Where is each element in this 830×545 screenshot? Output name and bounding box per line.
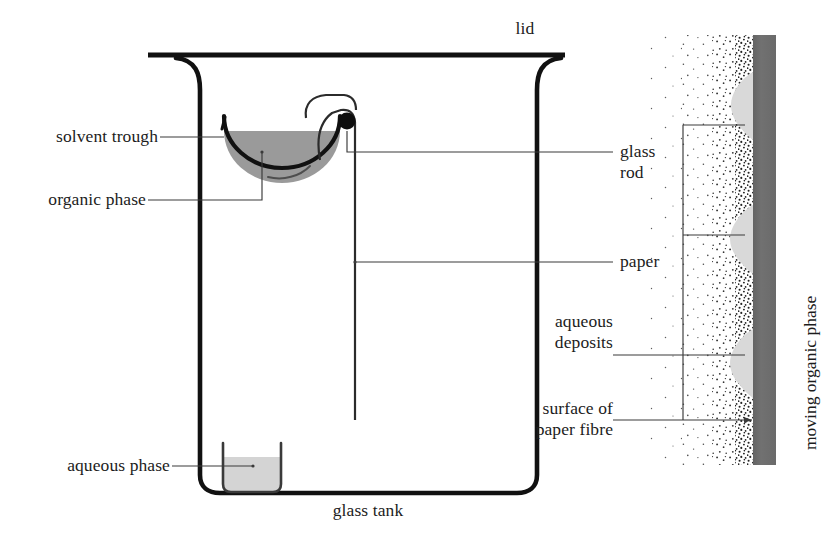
label-lid: lid (490, 18, 560, 39)
label-aqueous-phase: aqueous phase (0, 455, 170, 476)
label-glass-tank: glass tank (278, 500, 458, 521)
stipple-sparse (682, 35, 712, 465)
label-aqueous-deposits-line2: deposits (383, 332, 613, 353)
label-surface-paper-fibre: surface of paper fibre (383, 398, 613, 439)
label-surface-line1: surface of (383, 398, 613, 419)
leader-dot-aqueous-phase (251, 464, 254, 467)
aqueous-beaker-liquid (223, 457, 281, 492)
moving-organic-phase-bar (753, 35, 776, 465)
leader-dot-organic-phase (260, 150, 263, 153)
label-surface-line2: paper fibre (383, 419, 613, 440)
leader-glass-rod (347, 131, 613, 152)
label-aqueous-deposits: aqueous deposits (383, 311, 613, 352)
figure-root: lid solvent trough organic phase glass r… (0, 0, 830, 545)
solvent-trough-liquid (224, 131, 340, 183)
fibre-detail-panel (613, 35, 776, 465)
label-paper: paper (620, 251, 659, 272)
label-glass-rod-line2: rod (620, 162, 656, 183)
stipple-very-sparse (648, 35, 682, 465)
glass-rod (339, 113, 356, 130)
label-glass-rod: glass rod (620, 141, 656, 182)
label-moving-organic-phase: moving organic phase (800, 296, 821, 450)
label-glass-rod-line1: glass (620, 141, 656, 162)
leader-dot-paper (353, 260, 356, 263)
label-organic-phase: organic phase (0, 189, 146, 210)
stipple-mid (712, 35, 735, 465)
label-solvent-trough: solvent trough (0, 126, 158, 147)
label-aqueous-deposits-line1: aqueous (383, 311, 613, 332)
